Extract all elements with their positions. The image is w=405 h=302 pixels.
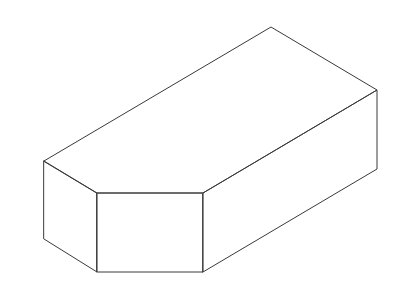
left-chamfer-face (44, 161, 97, 272)
front-face (97, 193, 203, 272)
right-side-face (203, 90, 377, 272)
diagram-canvas (0, 0, 405, 302)
isometric-prism-drawing (0, 0, 405, 302)
top-face (44, 27, 377, 193)
